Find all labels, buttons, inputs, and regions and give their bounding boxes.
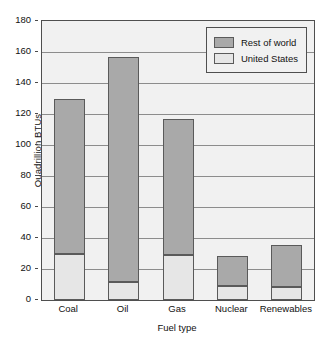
plot-area: Rest of worldUnited States [41,20,315,301]
y-tick-label: 20 [0,263,31,273]
bar-segment-rest-of-world [217,256,248,286]
y-tick-mark [35,299,38,300]
legend-item: Rest of world [214,34,298,50]
bar-segment-rest-of-world [108,57,139,283]
legend-swatch [214,53,234,64]
bar-segment-united-states [163,255,194,300]
bar-segment-united-states [217,286,248,300]
bar-segment-rest-of-world [163,119,194,255]
bar-segment-rest-of-world [54,99,85,254]
y-tick-mark [35,82,38,83]
y-tick-label: 140 [0,77,31,87]
x-tick-label-renewables: Renewables [259,303,313,314]
x-tick-label-coal: Coal [41,303,95,314]
y-tick-mark [35,113,38,114]
y-tick-label: 0 [0,294,31,304]
x-tick-label-oil: Oil [95,303,149,314]
y-tick-mark [35,237,38,238]
x-tick-label-nuclear: Nuclear [204,303,258,314]
bar-group-coal [54,99,85,301]
y-tick-label: 60 [0,201,31,211]
bar-group-oil [108,57,139,300]
y-tick-mark [35,268,38,269]
bar-segment-united-states [54,254,85,301]
y-tick-label: 100 [0,139,31,149]
y-tick-mark [35,144,38,145]
y-tick-label: 160 [0,46,31,56]
legend-swatch [214,37,234,48]
bar-group-renewables [271,245,302,300]
y-axis-tick-labels: 020406080100120140160180 [0,0,38,344]
chart-legend: Rest of worldUnited States [206,27,307,73]
y-tick-mark [35,51,38,52]
y-tick-label: 180 [0,15,31,25]
stacked-bar-chart: Quadrillion BTUs 02040608010012014016018… [0,0,322,344]
y-tick-label: 40 [0,232,31,242]
x-axis-tick-labels: CoalOilGasNuclearRenewables [41,303,313,317]
y-tick-label: 80 [0,170,31,180]
x-axis-title: Fuel type [41,322,313,333]
x-tick-label-gas: Gas [150,303,204,314]
legend-label: United States [241,53,298,64]
bar-group-gas [163,119,194,300]
y-tick-mark [35,20,38,21]
bar-segment-united-states [108,282,139,300]
legend-item: United States [214,50,298,66]
bar-segment-rest-of-world [271,245,302,287]
y-tick-label: 120 [0,108,31,118]
legend-label: Rest of world [241,37,296,48]
y-tick-mark [35,206,38,207]
y-tick-mark [35,175,38,176]
bar-group-nuclear [217,256,248,300]
bar-segment-united-states [271,287,302,300]
